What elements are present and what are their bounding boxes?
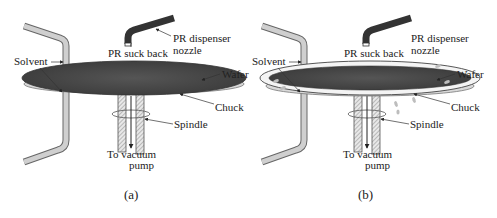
label-solvent: Solvent bbox=[14, 55, 48, 67]
label-solvent: Solvent bbox=[252, 55, 286, 67]
label-wafer: Wafer bbox=[457, 68, 484, 80]
caption-a: (a) bbox=[124, 187, 138, 202]
solvent-tube bbox=[262, 26, 304, 162]
label-pr-dispenser: PR dispenser bbox=[173, 32, 231, 44]
label-pr-suck-back: PR suck back bbox=[108, 47, 168, 59]
label-chuck: Chuck bbox=[215, 101, 244, 113]
pr-dispenser-nozzle bbox=[366, 18, 411, 44]
label-pr-dispenser: PR dispenser bbox=[411, 32, 469, 44]
spin-coater-diagram: Solvent PR suck back PR dispenser nozzle… bbox=[0, 0, 497, 218]
label-spindle: Spindle bbox=[174, 118, 208, 130]
label-nozzle: nozzle bbox=[411, 44, 440, 56]
label-pr-suck-back: PR suck back bbox=[344, 47, 404, 59]
caption-b: (b) bbox=[358, 187, 373, 202]
solvent-tube bbox=[24, 26, 66, 162]
panel-a: Solvent PR suck back PR dispenser nozzle… bbox=[14, 18, 249, 202]
photoresist-layer bbox=[269, 66, 471, 90]
spindle bbox=[348, 94, 386, 154]
wafer bbox=[22, 61, 246, 95]
spindle bbox=[112, 94, 150, 154]
label-nozzle: nozzle bbox=[173, 44, 202, 56]
panel-b: Solvent PR suck back PR dispenser nozzle… bbox=[252, 18, 484, 202]
label-chuck: Chuck bbox=[451, 101, 480, 113]
pr-dispenser-nozzle bbox=[128, 18, 174, 44]
label-spindle: Spindle bbox=[410, 118, 444, 130]
label-wafer: Wafer bbox=[222, 68, 249, 80]
label-pump: pump bbox=[129, 159, 155, 171]
label-pump: pump bbox=[365, 159, 391, 171]
